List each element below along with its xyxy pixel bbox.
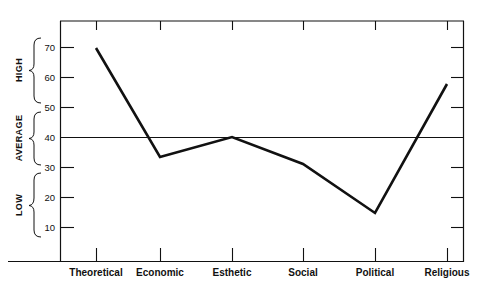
x-label-social: Social [288, 267, 318, 278]
y-tick-label-20: 20 [44, 192, 55, 203]
x-axis-category-labels: Theoretical Economic Esthetic Social Pol… [69, 267, 470, 278]
band-brackets [29, 38, 41, 237]
x-label-theoretical: Theoretical [69, 267, 123, 278]
bottom-axis-ticks [97, 248, 448, 261]
value-profile-line-chart: 70 60 50 40 30 20 10 Theoretical Economi… [0, 0, 496, 297]
y-tick-label-40: 40 [44, 132, 55, 143]
y-tick-label-60: 60 [44, 72, 55, 83]
band-label-average: AVERAGE [14, 115, 24, 162]
band-label-low: LOW [14, 194, 24, 216]
x-label-esthetic: Esthetic [213, 267, 252, 278]
chart-container: 70 60 50 40 30 20 10 Theoretical Economi… [0, 0, 496, 297]
y-tick-label-30: 30 [44, 162, 55, 173]
band-label-high: HIGH [14, 58, 24, 82]
y-tick-label-70: 70 [44, 42, 55, 53]
bracket-average [29, 112, 41, 165]
bracket-high [29, 38, 41, 103]
x-label-economic: Economic [136, 267, 184, 278]
y-axis-tick-labels: 70 60 50 40 30 20 10 [44, 42, 55, 233]
y-tick-label-50: 50 [44, 102, 55, 113]
top-axis-ticks [97, 21, 448, 30]
x-label-political: Political [356, 267, 395, 278]
band-labels: HIGH AVERAGE LOW [14, 58, 24, 216]
plot-frame [8, 21, 464, 262]
y-tick-label-10: 10 [44, 222, 55, 233]
bracket-low [29, 173, 41, 237]
x-label-religious: Religious [424, 267, 469, 278]
score-profile-line [96, 48, 447, 213]
